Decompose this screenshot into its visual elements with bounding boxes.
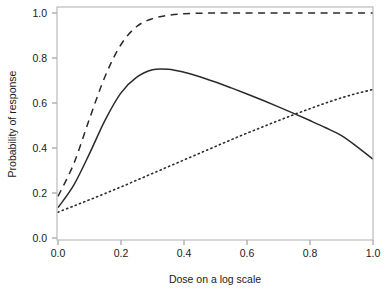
x-tick-label: 0.4 (177, 247, 192, 259)
x-axis-tick-labels: 0.00.20.40.60.81.0 (51, 247, 381, 259)
plot-area-background (57, 7, 373, 240)
y-tick-label: 0.0 (32, 232, 47, 244)
y-tick-label: 1.0 (32, 7, 47, 19)
y-tick-label: 0.2 (32, 187, 47, 199)
line-chart: 0.00.20.40.60.81.0 0.00.20.40.60.81.0 Do… (0, 0, 387, 295)
y-axis-ticks (52, 13, 57, 238)
x-tick-label: 0.0 (51, 247, 66, 259)
chart-figure: 0.00.20.40.60.81.0 0.00.20.40.60.81.0 Do… (0, 0, 387, 295)
x-tick-label: 0.8 (303, 247, 318, 259)
y-tick-label: 0.8 (32, 52, 47, 64)
x-tick-label: 1.0 (366, 247, 381, 259)
y-axis-title: Probability of response (6, 70, 18, 177)
y-axis-tick-labels: 0.00.20.40.60.81.0 (32, 7, 47, 244)
x-axis-title: Dose on a log scale (169, 273, 261, 285)
y-tick-label: 0.6 (32, 97, 47, 109)
y-tick-label: 0.4 (32, 142, 47, 154)
x-tick-label: 0.6 (240, 247, 255, 259)
x-axis-ticks (58, 240, 373, 245)
x-tick-label: 0.2 (114, 247, 129, 259)
